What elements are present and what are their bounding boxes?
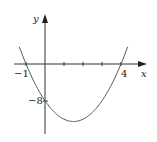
chart: y x −1 4 −8: [0, 0, 157, 142]
y-axis-label: y: [33, 14, 39, 24]
x-axis-arrow-icon: [138, 61, 147, 67]
x-tick-label-neg1: −1: [14, 69, 29, 79]
x-tick-label-4: 4: [121, 69, 127, 79]
parabola-curve: [19, 47, 127, 122]
y-axis-arrow-icon: [42, 14, 48, 23]
y-tick-label-neg8: −8: [28, 96, 43, 106]
x-axis-label: x: [141, 69, 147, 79]
